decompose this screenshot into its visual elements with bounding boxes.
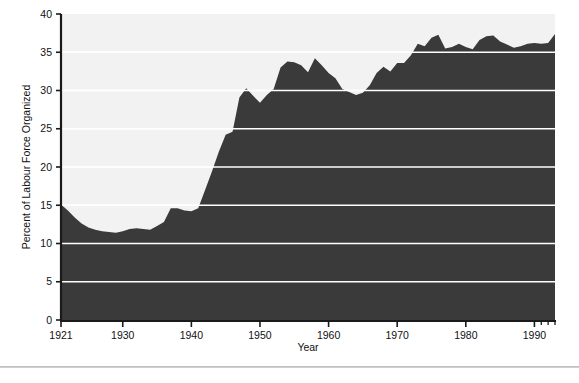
y-tick-label-40: 40 — [40, 8, 52, 20]
chart-figure: 0510152025303540 19211930194019501960197… — [0, 0, 579, 383]
x-tick-label-1990: 1990 — [523, 329, 547, 341]
y-tick-label-20: 20 — [40, 161, 52, 173]
page-bottom-rule — [0, 366, 579, 368]
x-axis-ticks: 19211930194019501960197019801990 — [49, 321, 546, 341]
x-tick-label-1960: 1960 — [317, 329, 341, 341]
y-axis-ticks: 0510152025303540 — [40, 8, 61, 326]
x-tick-label-1940: 1940 — [180, 329, 204, 341]
x-tick-label-1950: 1950 — [248, 329, 272, 341]
x-axis-title: Year — [297, 341, 319, 353]
y-tick-label-35: 35 — [40, 46, 52, 58]
y-axis-title: Percent of Labour Force Organized — [20, 85, 32, 250]
y-tick-label-0: 0 — [46, 314, 52, 326]
y-tick-label-25: 25 — [40, 122, 52, 134]
y-tick-label-10: 10 — [40, 237, 52, 249]
x-tick-label-1970: 1970 — [386, 329, 410, 341]
y-tick-label-5: 5 — [46, 275, 52, 287]
x-tick-label-1921: 1921 — [49, 329, 73, 341]
x-tick-label-1930: 1930 — [111, 329, 135, 341]
y-tick-label-30: 30 — [40, 84, 52, 96]
union-density-area-chart: 0510152025303540 19211930194019501960197… — [0, 0, 579, 383]
y-tick-label-15: 15 — [40, 199, 52, 211]
x-tick-label-1980: 1980 — [454, 329, 478, 341]
